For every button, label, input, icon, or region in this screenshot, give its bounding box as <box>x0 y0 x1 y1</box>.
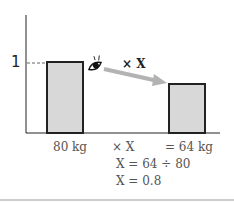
equation-2: X = 0.8 <box>116 175 161 187</box>
divider <box>0 199 234 201</box>
bar-80kg <box>47 62 83 133</box>
bar-1-label: 80 kg <box>53 141 87 153</box>
arrow-icon <box>104 69 167 86</box>
bar-64kg <box>169 84 205 133</box>
eye-icon <box>84 54 104 72</box>
multiplier-label: × X <box>112 141 134 153</box>
unit-label: 1 <box>11 55 21 70</box>
bar-2-label: = 64 kg <box>165 141 213 153</box>
ratio-diagram <box>0 0 234 202</box>
equation-1: X = 64 ÷ 80 <box>116 158 190 170</box>
arrow-label: × X <box>122 58 146 70</box>
